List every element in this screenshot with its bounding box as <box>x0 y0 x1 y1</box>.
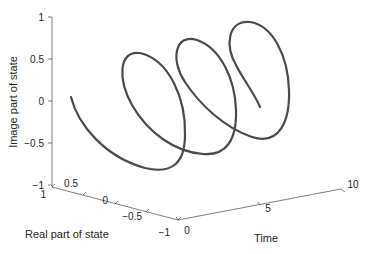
helix-3d-plot: 1 0.5 0 −0.5 −1 Image part of state 1 0.… <box>0 0 371 254</box>
helix-curve <box>71 22 289 170</box>
real-tick-label: 0.5 <box>64 178 78 189</box>
time-tick-label: 5 <box>265 203 271 214</box>
time-tick-label: 0 <box>184 225 190 236</box>
z-tick-label: −0.5 <box>24 138 44 149</box>
real-tick-label: 1 <box>40 189 46 200</box>
z-axis-ticks <box>48 17 52 185</box>
z-tick-label: 0.5 <box>30 54 44 65</box>
real-tick-label: −1 <box>159 227 171 238</box>
real-axis-ticks <box>52 184 181 220</box>
z-tick-label: 0 <box>38 96 44 107</box>
z-axis-label: Image part of state <box>7 56 19 148</box>
real-axis-label: Real part of state <box>25 228 109 240</box>
z-tick-label: 1 <box>38 12 44 23</box>
real-tick-label: −0.5 <box>122 211 142 222</box>
real-axis-line <box>52 187 178 220</box>
time-tick-label: 10 <box>347 179 359 190</box>
time-axis-label: Time <box>254 232 278 244</box>
real-tick-label: 0 <box>102 195 108 206</box>
